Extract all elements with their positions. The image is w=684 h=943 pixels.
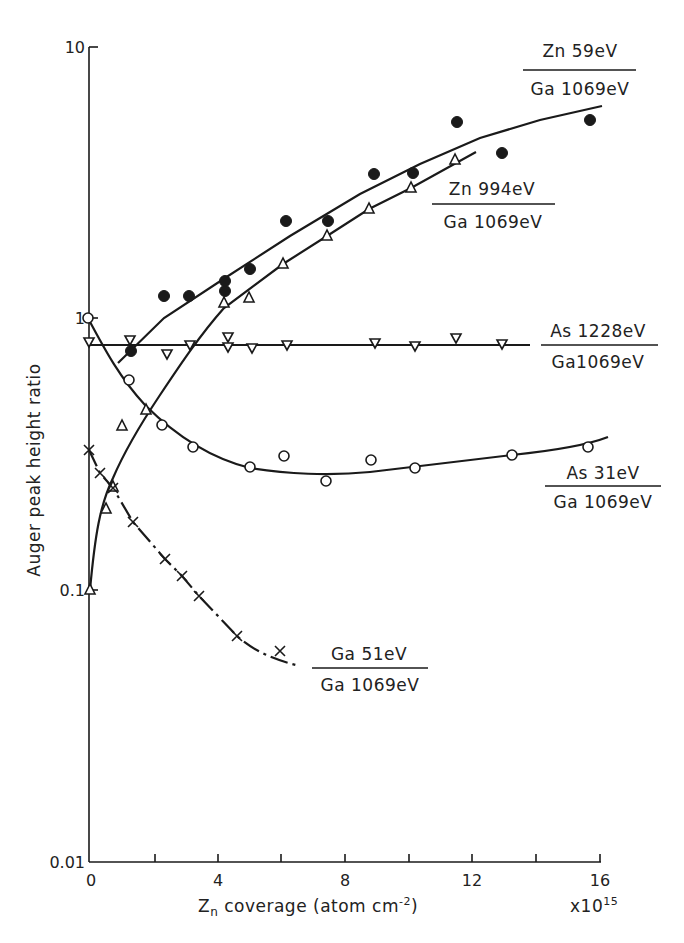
data-point [124, 375, 134, 385]
label-ga51-den: Ga 1069eV [321, 675, 420, 695]
data-point [162, 350, 172, 359]
auger-ratio-chart: 10 1 0.1 0.01 0 4 8 12 16 Zn coverage (a… [0, 0, 684, 943]
data-point [366, 455, 376, 465]
x-label-rest: coverage (atom cm [218, 896, 399, 916]
label-ga51: Ga 51eV Ga 1069eV [312, 644, 428, 695]
data-point [507, 450, 517, 460]
data-point [232, 631, 242, 641]
x-label-sub: n [210, 905, 218, 919]
label-ga51-num: Ga 51eV [331, 644, 407, 664]
curve-zn59 [118, 106, 602, 363]
data-point [410, 342, 420, 351]
data-point [117, 420, 127, 430]
data-point [450, 154, 460, 164]
label-zn59-den: Ga 1069eV [531, 79, 630, 99]
label-zn994: Zn 994eV Ga 1069eV [432, 179, 555, 232]
label-as31-den: Ga 1069eV [554, 492, 653, 512]
data-point [585, 115, 596, 126]
x-label-close: ) [411, 896, 418, 916]
label-zn994-den: Ga 1069eV [444, 212, 543, 232]
y-axis-label: Auger peak height ratio [24, 363, 44, 576]
data-point [159, 291, 170, 302]
data-point [160, 554, 170, 564]
data-point [177, 571, 187, 581]
x-tick-label-4: 4 [213, 871, 223, 890]
data-point [452, 117, 463, 128]
x-multiplier: x1015 [570, 895, 618, 916]
data-point [247, 344, 257, 353]
data-point [279, 451, 289, 461]
data-point [370, 339, 380, 348]
data-point [220, 276, 231, 287]
data-point [223, 343, 233, 352]
data-point [321, 476, 331, 486]
x-multiplier-base: x10 [570, 896, 603, 916]
y-tick-label-0.1: 0.1 [60, 581, 85, 600]
label-zn994-num: Zn 994eV [449, 179, 535, 199]
data-point [184, 291, 195, 302]
x-tick-label-16: 16 [590, 871, 610, 890]
data-point [85, 584, 95, 594]
data-point [275, 646, 285, 656]
y-tick-label-0.01: 0.01 [49, 853, 85, 872]
data-point [128, 517, 138, 527]
series-zn994-markers [85, 154, 460, 594]
data-point [583, 442, 593, 452]
data-point [245, 264, 256, 275]
label-as31: As 31eV Ga 1069eV [545, 463, 661, 512]
data-point [245, 462, 255, 472]
label-as1228: As 1228eV Ga1069eV [541, 321, 658, 372]
data-point [95, 468, 105, 478]
x-tick-label-8: 8 [340, 871, 350, 890]
data-point [188, 442, 198, 452]
label-zn59-num: Zn 59eV [542, 41, 617, 61]
series-as31-markers [83, 313, 593, 486]
x-multiplier-exp: 15 [603, 895, 618, 908]
curve-ga51 [89, 450, 300, 666]
data-point [83, 313, 93, 323]
data-point [244, 292, 254, 302]
label-zn59: Zn 59eV Ga 1069eV [523, 41, 636, 99]
data-point [410, 463, 420, 473]
data-point [219, 297, 229, 307]
y-tick-label-10: 10 [65, 38, 85, 57]
data-point [223, 333, 233, 342]
data-point [369, 169, 380, 180]
data-point [497, 148, 508, 159]
x-tick-label-12: 12 [462, 871, 482, 890]
x-tick-label-0: 0 [86, 871, 96, 890]
data-point [125, 336, 135, 345]
data-point [281, 216, 292, 227]
data-point [323, 216, 334, 227]
label-as31-num: As 31eV [566, 463, 639, 483]
series-zn59-markers [126, 115, 596, 357]
curve-as31 [89, 320, 608, 474]
x-label-z: Z [198, 896, 210, 916]
data-point [126, 346, 137, 357]
label-as1228-num: As 1228eV [550, 321, 646, 341]
data-point [408, 168, 419, 179]
label-as1228-den: Ga1069eV [552, 352, 645, 372]
x-label-sup: -2 [399, 895, 411, 908]
x-axis-label: Zn coverage (atom cm-2) [198, 895, 418, 919]
data-point [220, 286, 231, 297]
data-point [451, 334, 461, 343]
data-point [194, 591, 204, 601]
data-point [157, 420, 167, 430]
